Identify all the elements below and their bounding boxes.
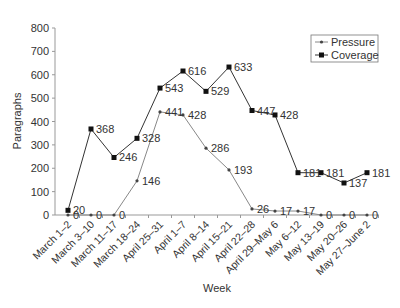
legend-label: Coverage [331, 49, 379, 61]
dot-marker [66, 213, 69, 216]
data-label: 146 [142, 175, 160, 187]
dot-marker [204, 147, 207, 150]
data-label: 286 [211, 142, 229, 154]
square-marker [342, 180, 347, 185]
data-label: 447 [257, 105, 275, 117]
data-label: 137 [349, 177, 367, 189]
y-tick-label: 800 [31, 22, 49, 34]
dot-marker [296, 209, 299, 212]
y-tick-label: 200 [31, 162, 49, 174]
data-label: 0 [349, 209, 355, 221]
data-label: 26 [257, 203, 269, 215]
square-marker [135, 136, 140, 141]
data-label: 0 [119, 209, 125, 221]
y-tick-label: 100 [31, 186, 49, 198]
dot-marker [273, 209, 276, 212]
dot-marker [112, 213, 115, 216]
dot-marker [342, 213, 345, 216]
data-label: 529 [211, 85, 229, 97]
data-label: 17 [303, 205, 315, 217]
data-label: 428 [280, 109, 298, 121]
data-label: 193 [234, 164, 252, 176]
y-tick-label: 700 [31, 45, 49, 57]
dot-marker [365, 213, 368, 216]
data-label: 181 [303, 167, 321, 179]
data-label: 428 [188, 109, 206, 121]
square-marker [250, 108, 255, 113]
data-label: 543 [165, 82, 183, 94]
dot-marker [319, 213, 322, 216]
data-label: 633 [234, 61, 252, 73]
dot-marker [89, 213, 92, 216]
legend: PressureCoverage [311, 35, 379, 62]
data-label: 616 [188, 65, 206, 77]
dot-marker [227, 168, 230, 171]
data-label: 181 [326, 167, 344, 179]
data-label: 0 [96, 209, 102, 221]
data-label: 0 [326, 209, 332, 221]
square-marker [365, 170, 370, 175]
data-label: 441 [165, 106, 183, 118]
square-marker [296, 170, 301, 175]
y-tick-label: 600 [31, 69, 49, 81]
legend-dot-icon [320, 40, 323, 43]
square-marker [66, 208, 71, 213]
y-tick-label: 400 [31, 116, 49, 128]
square-marker [89, 126, 94, 131]
square-marker [181, 69, 186, 74]
y-tick-label: 300 [31, 139, 49, 151]
square-marker [227, 65, 232, 70]
square-marker [112, 155, 117, 160]
data-label: 246 [119, 151, 137, 163]
y-tick-label: 500 [31, 92, 49, 104]
y-tick-label: 0 [43, 209, 49, 221]
line-chart: 0100200300400500600700800March 1–2March … [0, 0, 400, 308]
dot-marker [250, 207, 253, 210]
dot-marker [158, 110, 161, 113]
data-label: 17 [280, 205, 292, 217]
data-label: 20 [73, 204, 85, 216]
data-label: 0 [372, 209, 378, 221]
data-label: 181 [372, 167, 390, 179]
square-marker [158, 86, 163, 91]
square-marker [204, 89, 209, 94]
data-label: 328 [142, 132, 160, 144]
legend-square-icon [319, 53, 324, 58]
dot-marker [135, 179, 138, 182]
x-axis-title: Week [203, 282, 231, 294]
legend-label: Pressure [331, 36, 375, 48]
y-axis-title: Paragraphs [11, 92, 23, 149]
data-label: 368 [96, 123, 114, 135]
data-labels: 0001464414282861932617170002036824632854… [73, 61, 390, 221]
